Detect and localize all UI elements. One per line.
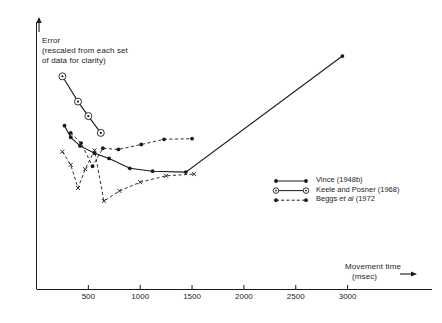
- x-tick-label: 500: [82, 292, 95, 301]
- series-line: [62, 76, 100, 133]
- data-point-marker: [190, 137, 194, 141]
- data-point-marker: [60, 150, 64, 154]
- data-point-marker: [76, 186, 80, 190]
- legend-italic-text: et al: [339, 194, 353, 203]
- data-point-marker: [63, 124, 67, 128]
- y-axis-arrow-icon: [36, 17, 41, 32]
- data-point-marker: [83, 167, 87, 171]
- legend-marker: [274, 179, 278, 183]
- legend-marker: [274, 198, 278, 202]
- series-line: [65, 56, 343, 172]
- legend-marker: [304, 179, 308, 183]
- data-point-marker: [117, 148, 121, 152]
- series-line: [62, 150, 194, 201]
- data-point-marker: [91, 164, 95, 168]
- data-point-marker: [184, 170, 188, 174]
- data-point-marker: [151, 169, 155, 173]
- x-axis-label: Movement time: [345, 262, 401, 272]
- data-point-marker: [117, 189, 121, 193]
- data-point-marker: [100, 132, 102, 134]
- legend-item: Beggs et al (1972: [316, 194, 399, 204]
- data-point-marker: [162, 137, 166, 141]
- data-point-marker: [101, 146, 105, 150]
- x-tick-label: 3000: [339, 292, 357, 301]
- data-point-marker: [61, 75, 63, 77]
- x-axis-unit-label: (msec): [352, 272, 377, 282]
- x-axis-arrow-icon: [400, 272, 417, 277]
- legend-marker: [305, 190, 307, 192]
- data-point-marker: [87, 115, 89, 117]
- data-point-marker: [107, 157, 111, 161]
- data-point-marker: [128, 166, 132, 170]
- x-tick-label: 1500: [183, 292, 201, 301]
- data-point-marker: [341, 54, 345, 58]
- data-point-marker: [79, 141, 83, 145]
- chart-figure: Error (rescaled from each set of data fo…: [0, 0, 442, 323]
- data-point-marker: [69, 135, 73, 139]
- legend-item: Vince (1948b): [316, 175, 399, 185]
- legend-labels: Vince (1948b)Keele and Posner (1968)Begg…: [316, 175, 399, 204]
- x-tick-label: 2500: [287, 292, 305, 301]
- legend-symbols: [273, 179, 309, 202]
- data-point-marker: [69, 131, 73, 135]
- y-axis-label: Error (rescaled from each set of data fo…: [42, 36, 128, 66]
- x-tick-label: 2000: [235, 292, 253, 301]
- legend-marker: [304, 198, 308, 202]
- data-point-marker: [77, 100, 79, 102]
- data-point-marker: [69, 163, 73, 167]
- x-tick-label: 1000: [131, 292, 149, 301]
- legend-marker: [275, 190, 277, 192]
- legend-item: Keele and Posner (1968): [316, 185, 399, 195]
- data-point-marker: [139, 143, 143, 147]
